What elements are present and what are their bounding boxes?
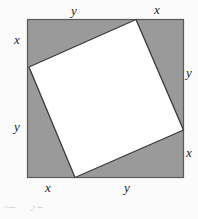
caption-fragment-clipped: x2 + y2 [4, 206, 194, 219]
label-left-y: y [14, 120, 20, 133]
figure-container: y x x y y x x y x2 + y2 [0, 0, 198, 219]
label-top-y: y [71, 4, 77, 17]
label-right-x: x [186, 146, 192, 159]
caption-fragment-text: x2 + y2 [4, 206, 194, 210]
label-left-x: x [14, 33, 20, 46]
geometry-figure [0, 0, 198, 219]
label-right-y: y [186, 66, 192, 79]
label-top-x: x [154, 3, 160, 16]
label-bottom-y: y [124, 181, 130, 194]
label-bottom-x: x [45, 181, 51, 194]
